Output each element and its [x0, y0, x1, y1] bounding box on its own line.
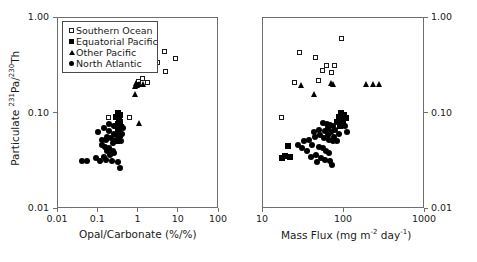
triangle-icon: [67, 50, 76, 55]
x-tick-label: 1000: [404, 213, 444, 224]
data-point: [313, 55, 318, 60]
data-point: [311, 91, 317, 97]
data-point: [363, 81, 369, 87]
data-point: [332, 63, 337, 68]
filled-square-icon: [67, 39, 76, 44]
data-point: [320, 68, 325, 73]
x-tick-mark: [424, 208, 425, 212]
legend-label: Other Pacific: [76, 47, 136, 58]
data-point: [339, 36, 344, 41]
x-axis-label-right: Mass Flux (mg m-2 day-1): [281, 228, 411, 241]
x-tick-mark: [262, 208, 263, 212]
data-point: [287, 154, 293, 160]
x-tick-label: 10: [242, 213, 282, 224]
data-point: [304, 148, 310, 154]
data-point: [298, 82, 304, 88]
legend-item-equatorial-pacific: Equatorial Pacific: [67, 36, 152, 47]
legend-item-north-atlantic: North Atlantic: [67, 58, 152, 69]
y-tick-mark: [424, 17, 428, 18]
y-tick-mark: [424, 112, 428, 113]
data-point: [297, 50, 302, 55]
y-tick-mark: [424, 208, 428, 209]
legend-label: North Atlantic: [76, 58, 142, 69]
y-tick-label: 0.10: [431, 107, 452, 118]
circle-icon: [67, 61, 76, 66]
legend: Southern Ocean Equatorial Pacific Other …: [62, 21, 158, 73]
legend-label: Southern Ocean: [76, 25, 153, 36]
data-point: [325, 132, 331, 138]
data-point: [329, 70, 334, 75]
legend-item-other-pacific: Other Pacific: [67, 47, 152, 58]
data-point: [279, 115, 284, 120]
open-square-icon: [67, 28, 76, 33]
figure-root: Particulate 231Pa/230Th 1.000.100.01 0.0…: [0, 0, 477, 262]
data-point: [316, 78, 321, 83]
legend-item-southern-ocean: Southern Ocean: [67, 25, 152, 36]
data-point: [292, 80, 297, 85]
data-point: [308, 154, 314, 160]
y-tick-label: 0.01: [431, 202, 452, 213]
data-point: [343, 115, 349, 121]
data-point: [279, 155, 285, 161]
y-tick-label: 1.00: [431, 11, 452, 22]
data-point: [285, 143, 291, 149]
x-tick-mark: [343, 208, 344, 212]
data-point: [342, 123, 348, 129]
legend-label: Equatorial Pacific: [76, 36, 158, 47]
data-point: [376, 81, 382, 87]
x-tick-label: 100: [323, 213, 363, 224]
data-point: [330, 81, 336, 87]
